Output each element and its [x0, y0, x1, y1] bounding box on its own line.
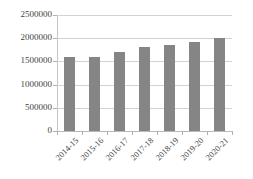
x-axis-tick-mark: [207, 131, 208, 135]
x-axis-tick-mark: [182, 131, 183, 135]
y-axis-tick-label: 2500000: [0, 10, 52, 19]
bar[interactable]: [114, 52, 125, 131]
gridline: [57, 15, 232, 16]
x-axis-tick-mark: [57, 131, 58, 135]
x-axis-tick-mark: [232, 131, 233, 135]
bar[interactable]: [214, 38, 225, 131]
axis-baseline: [57, 131, 232, 132]
x-axis-tick-mark: [157, 131, 158, 135]
x-axis-tick-mark: [82, 131, 83, 135]
y-axis-tick-label: 0: [0, 126, 52, 135]
x-axis-tick-label: 2014-15: [49, 136, 79, 166]
x-axis-tick-mark: [107, 131, 108, 135]
y-axis-tick-label: 1500000: [0, 56, 52, 65]
y-axis-tick-label: 1000000: [0, 80, 52, 89]
y-axis-tick-label: 500000: [0, 103, 52, 112]
bar[interactable]: [164, 45, 175, 131]
bar[interactable]: [139, 47, 150, 131]
bar[interactable]: [64, 57, 75, 131]
y-axis-tick-label: 2000000: [0, 33, 52, 42]
x-axis-tick-mark: [132, 131, 133, 135]
bar-chart: 05000001000000150000020000002500000 2014…: [0, 0, 253, 179]
gridline: [57, 38, 232, 39]
bar[interactable]: [89, 57, 100, 131]
plot-area: [57, 15, 232, 131]
bar[interactable]: [189, 42, 200, 131]
